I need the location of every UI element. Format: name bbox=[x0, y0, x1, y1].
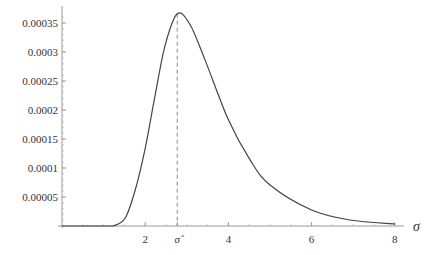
x-tick-label: 8 bbox=[392, 233, 398, 245]
y-tick-label: 0.00025 bbox=[22, 75, 58, 87]
x-tick-label: σ̂ bbox=[175, 233, 185, 245]
y-axis: 0.000050.00010.000150.00020.000250.00030… bbox=[22, 6, 66, 228]
series bbox=[62, 13, 395, 226]
y-tick-label: 0.00035 bbox=[22, 17, 58, 29]
x-tick-label: 4 bbox=[226, 233, 232, 245]
x-tick-label: 2 bbox=[142, 233, 148, 245]
y-tick-label: 0.00015 bbox=[22, 133, 58, 145]
x-axis: 2σ̂468σ bbox=[58, 219, 421, 245]
x-tick-label: 6 bbox=[309, 233, 315, 245]
x-axis-label: σ bbox=[413, 219, 421, 234]
chart: 0.000050.00010.000150.00020.000250.00030… bbox=[0, 0, 444, 255]
y-tick-label: 0.0002 bbox=[28, 104, 58, 116]
y-tick-label: 0.0003 bbox=[28, 46, 59, 58]
y-tick-label: 0.00005 bbox=[22, 191, 58, 203]
density-curve bbox=[62, 13, 395, 226]
y-tick-label: 0.0001 bbox=[28, 162, 58, 174]
